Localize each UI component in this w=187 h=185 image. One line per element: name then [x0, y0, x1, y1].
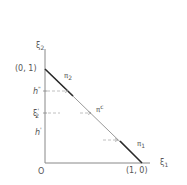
- point-0-1-label: (0, 1): [15, 65, 37, 73]
- y-axis-label: ξ2: [36, 42, 44, 51]
- pi2-label: π2: [64, 73, 72, 81]
- simplex-diagram: ξ2 ξ1 O (0, 1) (1, 0) h" ξ'2 h' π2 πc π1: [0, 0, 187, 185]
- h-double-prime-label: h": [33, 86, 41, 96]
- x-axis-label: ξ1: [160, 159, 168, 168]
- h-prime-label: h': [35, 127, 42, 137]
- xi2-prime-label: ξ'2: [33, 108, 39, 119]
- pi1-label: π1: [137, 141, 145, 149]
- pic-label: πc: [96, 104, 104, 114]
- point-1-0-label: (1, 0): [126, 167, 148, 175]
- diagram-canvas: [0, 0, 187, 185]
- origin-label: O: [38, 168, 44, 176]
